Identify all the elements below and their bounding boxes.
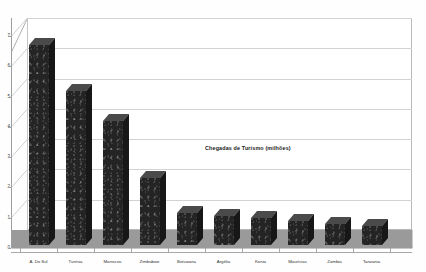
series-title: Chegadas de Turismo (milhões) [205,145,291,151]
bar-front-face [288,221,308,245]
x-tick-mark-end [390,248,391,252]
x-tick-mark-6 [242,248,243,252]
bar-front-face [29,45,49,245]
bar-front-face [140,178,160,245]
x-tick-mark-1 [57,248,58,252]
bar-front-face [103,121,123,245]
x-tick-mark-7 [279,248,280,252]
x-tick-mark-8 [316,248,317,252]
x-tick-mark-2 [94,248,95,252]
bar-front-face [325,224,345,245]
bar-Á. Do Sul [29,38,55,245]
bar-Marrocos [103,114,129,245]
bar-Argélia [214,209,240,245]
bar-Botswana [177,206,203,245]
x-tick-mark-9 [353,248,354,252]
bar-Tanzania [362,219,388,245]
x-tick-mark-3 [131,248,132,252]
bar-front-face [177,213,197,245]
bar-front-face [214,216,234,245]
bar-series [0,0,426,272]
bar-Zimbabwe [140,171,166,245]
x-tick-mark-5 [205,248,206,252]
bar-Zambia [325,217,351,245]
bar-front-face [251,218,271,245]
x-tick-mark-4 [168,248,169,252]
x-tick-mark-0 [20,248,21,252]
bar-front-face [66,91,86,245]
bar-Kenia [251,211,277,245]
tourism-arrivals-bar-chart: 01234567 Chegadas de Turismo (milhões) Á… [0,0,426,272]
bar-Tunísia [66,84,92,245]
x-axis-label-9: Tanzania [342,259,402,265]
bar-front-face [362,226,382,245]
x-axis-line [11,252,412,253]
bar-Maurícias [288,214,314,245]
